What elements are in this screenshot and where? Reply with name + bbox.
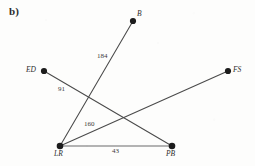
edge-weight-ed-pb: 91 — [58, 86, 65, 93]
graph-edges — [44, 21, 228, 146]
node-label-pb: PB — [166, 150, 175, 158]
graph-figure: b) B ED FS LR PB 184 91 160 43 — [0, 0, 255, 166]
edge-weight-lr-b: 184 — [97, 53, 108, 60]
edge-weight-lr-fs: 160 — [84, 121, 95, 128]
node-label-ed: ED — [26, 66, 36, 74]
edge-lr-b — [60, 21, 133, 146]
edge-ed-pb — [44, 71, 172, 146]
node-label-b: B — [137, 10, 142, 18]
graph-canvas — [0, 0, 255, 166]
node-label-fs: FS — [233, 66, 241, 74]
node-dot-fs — [225, 68, 231, 74]
node-label-lr: LR — [54, 150, 63, 158]
edge-weight-lr-pb: 43 — [112, 148, 119, 155]
node-dot-b — [130, 18, 136, 24]
panel-label: b) — [9, 5, 19, 17]
edge-lr-fs — [60, 71, 228, 146]
node-dot-ed — [41, 68, 47, 74]
